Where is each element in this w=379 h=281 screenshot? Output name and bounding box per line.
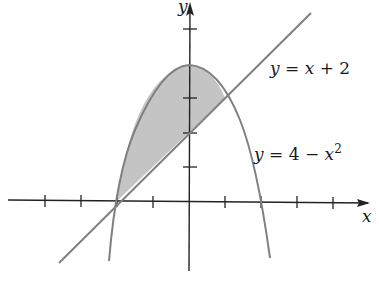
y-axis-label: y xyxy=(177,0,188,16)
x-axis xyxy=(8,200,368,203)
x-axis-label: x xyxy=(362,206,372,226)
parabola-equation-label: y = 4 − x2 xyxy=(253,142,342,164)
line-curve xyxy=(59,13,311,263)
diagram-canvas: y x y = x + 2 y = 4 − x2 xyxy=(0,0,379,281)
line-equation-label: y = x + 2 xyxy=(269,58,350,78)
y-axis xyxy=(189,6,190,271)
